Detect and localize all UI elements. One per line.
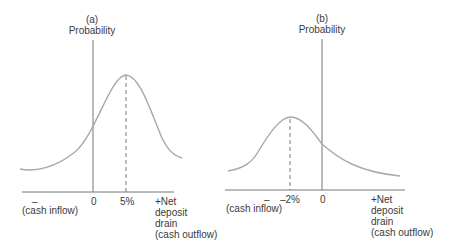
- panel-b-title: (b) Probability: [294, 13, 350, 35]
- panel-b: [225, 39, 405, 190]
- panel-a-probability-curve: [20, 75, 182, 170]
- panel-a-title: (a) Probability: [64, 14, 120, 36]
- panel-b-label: (b): [294, 13, 350, 24]
- panel-b-probability-curve: [228, 117, 400, 176]
- panel-b-x-axis-label: +Net deposit drain (cash outflow): [371, 194, 433, 238]
- panel-a-inflow-label: (cash inflow): [22, 205, 78, 216]
- panel-a-mean-label: 5%: [120, 196, 134, 207]
- panel-b-y-axis-label: Probability: [294, 24, 350, 35]
- panel-a-zero-label: 0: [91, 196, 97, 207]
- panel-a-x-axis-label: +Net deposit drain (cash outflow): [155, 196, 217, 240]
- panel-b-inflow-label: (cash inflow): [226, 203, 282, 214]
- panel-a-y-axis-label: Probability: [64, 25, 120, 36]
- panel-a-label: (a): [64, 14, 120, 25]
- panel-b-mean-label: –2%: [280, 194, 300, 205]
- panel-b-zero-label: 0: [320, 194, 326, 205]
- panel-a: [20, 40, 182, 192]
